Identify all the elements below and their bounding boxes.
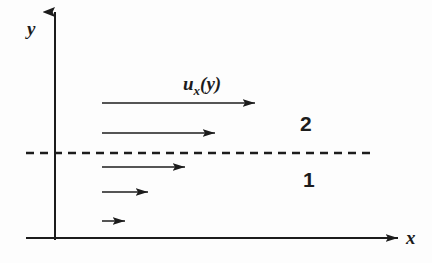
figure-canvas: y x ux(y) 2 1 [0,0,432,263]
region-label-2: 2 [300,112,312,135]
region-label-1: 1 [303,168,315,191]
velocity-function-label: ux(y) [183,73,221,98]
x-axis-label: x [405,227,416,248]
velocity-arrow-group [102,103,255,221]
y-axis-label: y [25,18,36,39]
velocity-label-argument: (y) [200,73,221,95]
velocity-profile-figure: y x ux(y) 2 1 [0,0,432,263]
svg-text:ux(y): ux(y) [183,73,221,98]
velocity-label-base: u [183,73,194,94]
